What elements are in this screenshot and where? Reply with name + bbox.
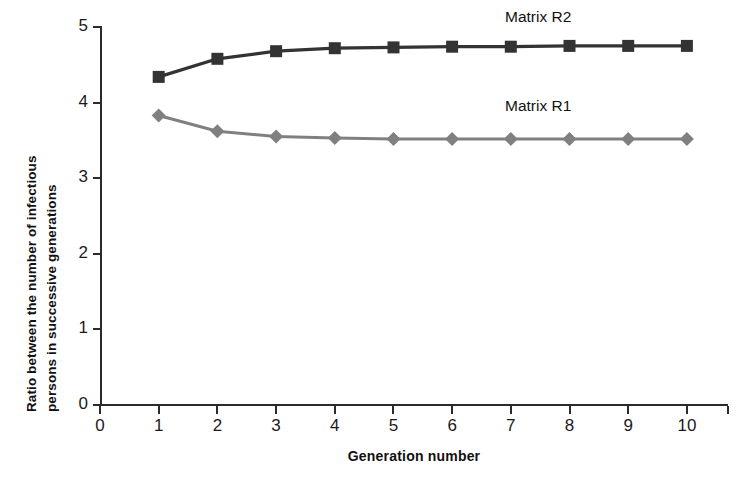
x-tick-label: 0: [80, 416, 120, 436]
data-point-marker-square: [505, 41, 517, 53]
data-point-marker-diamond: [504, 132, 518, 146]
data-point-marker-diamond: [152, 109, 166, 123]
y-tick-mark: [93, 253, 101, 255]
series-label-matrix-r1: Matrix R1: [505, 97, 571, 115]
x-tick-label: 4: [315, 416, 355, 436]
x-tick-mark: [158, 406, 160, 414]
x-tick-mark: [627, 406, 629, 414]
data-point-marker-square: [211, 53, 223, 65]
chart-figure: Ratio between the number of infectious p…: [0, 0, 746, 486]
data-point-marker-square: [681, 40, 693, 52]
y-tick-label: 2: [62, 243, 88, 263]
x-tick-label: 6: [432, 416, 472, 436]
data-point-marker-diamond: [269, 130, 283, 144]
y-tick-label: 1: [62, 318, 88, 338]
data-point-marker-diamond: [328, 131, 342, 145]
data-point-marker-diamond: [387, 132, 401, 146]
series-matrix-r1: [152, 109, 694, 146]
series-plot-area: [0, 0, 746, 486]
y-tick-label: 5: [62, 16, 88, 36]
x-tick-label: 2: [197, 416, 237, 436]
data-point-marker-square: [446, 41, 458, 53]
y-tick-label: 0: [62, 394, 88, 414]
x-tick-label: 8: [550, 416, 590, 436]
y-axis-title: Ratio between the number of infectious p…: [0, 0, 74, 440]
data-point-marker-square: [622, 40, 634, 52]
x-axis-title: Generation number: [100, 448, 728, 464]
x-tick-label: 10: [667, 416, 707, 436]
x-tick-mark: [334, 406, 336, 414]
data-point-marker-diamond: [621, 132, 635, 146]
y-axis-line: [100, 26, 102, 406]
data-point-marker-square: [388, 41, 400, 53]
series-line: [159, 116, 687, 139]
x-tick-mark: [275, 406, 277, 414]
y-tick-mark: [93, 177, 101, 179]
data-point-marker-square: [153, 71, 165, 83]
series-matrix-r2: [153, 40, 693, 83]
x-tick-mark: [99, 406, 101, 414]
y-tick-label: 4: [62, 92, 88, 112]
x-tick-mark: [569, 406, 571, 414]
data-point-marker-diamond: [210, 124, 224, 138]
data-point-marker-diamond: [563, 132, 577, 146]
y-axis-title-line-1: Ratio between the number of infectious: [24, 155, 39, 412]
x-tick-label: 5: [373, 416, 413, 436]
x-tick-mark: [451, 406, 453, 414]
data-point-marker-square: [270, 45, 282, 57]
x-axis-end-cap: [727, 406, 729, 414]
y-tick-mark: [93, 328, 101, 330]
data-point-marker-square: [329, 42, 341, 54]
y-tick-mark: [93, 102, 101, 104]
data-point-marker-diamond: [680, 132, 694, 146]
series-line: [159, 46, 687, 77]
x-tick-mark: [392, 406, 394, 414]
data-point-marker-square: [564, 40, 576, 52]
x-tick-label: 3: [256, 416, 296, 436]
x-tick-mark: [510, 406, 512, 414]
y-tick-label: 3: [62, 167, 88, 187]
x-tick-mark: [216, 406, 218, 414]
x-tick-label: 9: [608, 416, 648, 436]
series-label-matrix-r2: Matrix R2: [505, 8, 571, 26]
x-axis-line: [100, 404, 728, 406]
x-tick-mark: [686, 406, 688, 414]
x-tick-label: 1: [139, 416, 179, 436]
x-tick-label: 7: [491, 416, 531, 436]
data-point-marker-diamond: [445, 132, 459, 146]
y-tick-mark: [93, 26, 101, 28]
y-axis-title-line-2: persons in successive generations: [44, 184, 59, 412]
